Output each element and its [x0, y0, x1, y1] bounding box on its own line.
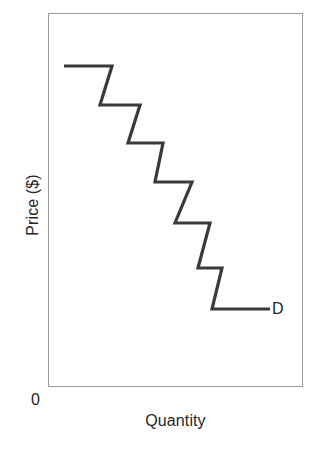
plot-frame — [48, 13, 303, 387]
origin-label: 0 — [31, 391, 40, 409]
x-axis-title: Quantity — [48, 412, 303, 430]
demand-curve-figure: Price ($) Quantity 0 D — [0, 0, 323, 449]
demand-curve-label: D — [272, 300, 284, 318]
y-axis-title: Price ($) — [24, 125, 42, 285]
